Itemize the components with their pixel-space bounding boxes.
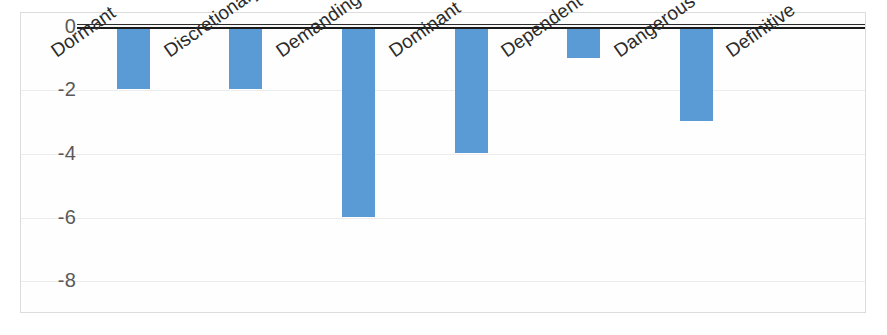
bar-discretionary[interactable] <box>229 26 262 90</box>
bar-dangerous[interactable] <box>680 26 713 121</box>
bar-dominant[interactable] <box>455 26 488 153</box>
bar-dormant[interactable] <box>117 26 150 90</box>
bar-chart: 0-2-4-6-8 DormantDiscretionaryDemandingD… <box>0 0 887 335</box>
category-label-dominant: Dominant <box>385 0 465 62</box>
bar-demanding[interactable] <box>342 26 375 217</box>
plot-area: DormantDiscretionaryDemandingDominantDep… <box>77 13 865 312</box>
category-label-definitive: Definitive <box>722 0 799 62</box>
bar-dependent[interactable] <box>567 26 600 58</box>
